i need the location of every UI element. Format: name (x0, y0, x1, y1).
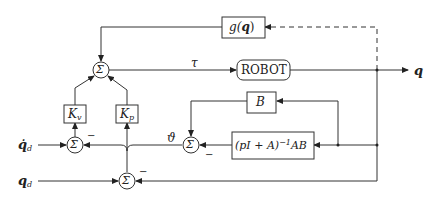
top-sigma-symbol: Σ (96, 64, 104, 75)
b-block-label: B (256, 96, 265, 108)
kv-block-label: Kv (68, 108, 82, 122)
junction-dot (337, 144, 340, 147)
position-minus-sign: − (139, 167, 147, 177)
filter-block-label: (pI + A)−1AB (235, 139, 307, 151)
junction-dot (376, 144, 379, 147)
tau-label: τ (191, 57, 198, 69)
qdot-d-label: q̇d (18, 138, 32, 153)
gravity-block-label: g(q) (229, 21, 254, 33)
theta-minus-sign: − (205, 150, 213, 160)
theta-wire (84, 145, 182, 151)
q-d-label: qd (18, 174, 32, 189)
kv-to-sigma-wire (75, 76, 94, 105)
q-output-label: q (414, 64, 423, 77)
gravity-feedback-wire (101, 27, 222, 61)
velocity-minus-sign: − (87, 131, 95, 141)
position-sigma-symbol: Σ (122, 175, 130, 186)
theta-label: ϑ (167, 132, 176, 144)
robot-block-label: ROBOT (241, 64, 287, 76)
junction-dot (376, 69, 379, 72)
b-to-theta-sigma-wire (191, 101, 247, 136)
kp-to-sigma-wire (108, 76, 127, 105)
velocity-sigma-symbol: Σ (70, 139, 78, 150)
theta-sigma-symbol: Σ (186, 139, 194, 150)
control-block-diagram: g(q) ROBOT Kv Kp B (pI + A)−1AB Σ Σ Σ Σ … (0, 0, 433, 200)
kp-block-label: Kp (120, 108, 134, 122)
diagram-wires (0, 0, 433, 200)
